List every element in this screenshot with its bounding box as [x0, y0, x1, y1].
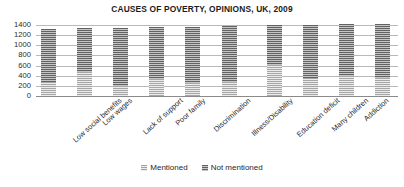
x-axis-label: Discrimination	[212, 96, 253, 134]
y-tick-label-600: 600	[18, 62, 31, 70]
x-axis-category-labels: Low social benefitsLow wagesLack of supp…	[36, 96, 398, 158]
bar-segment-mentioned[interactable]	[149, 79, 164, 96]
y-tick-label-1000: 1000	[14, 41, 31, 49]
legend-swatch-not-mentioned	[202, 165, 208, 171]
bar-column[interactable]	[267, 25, 282, 97]
bar-segment-mentioned[interactable]	[41, 82, 56, 96]
legend-label: Not mentioned	[211, 163, 263, 172]
bar-column[interactable]	[303, 25, 318, 97]
bar-segment-not-mentioned[interactable]	[303, 25, 318, 79]
bar-segment-not-mentioned[interactable]	[375, 24, 390, 78]
y-axis-tick-labels: 0200400600800100012001400	[0, 25, 34, 96]
bar-segment-not-mentioned[interactable]	[185, 27, 200, 83]
legend-item[interactable]: Mentioned	[141, 163, 187, 172]
bar-segment-not-mentioned[interactable]	[41, 29, 56, 82]
chart-page: CAUSES OF POVERTY, OPINIONS, UK, 2009 02…	[0, 0, 404, 187]
y-tick-label-0: 0	[27, 92, 31, 100]
y-tick-label-200: 200	[18, 82, 31, 90]
bar-segment-mentioned[interactable]	[267, 65, 282, 96]
bar-segment-not-mentioned[interactable]	[222, 26, 237, 82]
bar-column[interactable]	[41, 29, 56, 96]
bar-column[interactable]	[113, 28, 128, 96]
bar-column[interactable]	[222, 26, 237, 96]
bar-segment-mentioned[interactable]	[303, 78, 318, 96]
bar-segment-mentioned[interactable]	[77, 72, 92, 96]
bar-column[interactable]	[185, 27, 200, 96]
y-tick-label-1400: 1400	[14, 21, 31, 29]
y-tick-label-800: 800	[18, 52, 31, 60]
legend-swatch-mentioned	[141, 165, 147, 171]
bar-segment-mentioned[interactable]	[222, 82, 237, 96]
legend-item[interactable]: Not mentioned	[202, 163, 263, 172]
bar-column[interactable]	[375, 24, 390, 96]
chart-legend: MentionedNot mentioned	[0, 163, 404, 172]
plot-area	[36, 25, 398, 96]
bar-segment-mentioned[interactable]	[375, 78, 390, 96]
bar-segment-not-mentioned[interactable]	[267, 25, 282, 65]
legend-label: Mentioned	[150, 163, 187, 172]
bar-segment-not-mentioned[interactable]	[77, 28, 92, 72]
bar-segment-not-mentioned[interactable]	[149, 27, 164, 79]
x-axis-label: Low social benefits	[71, 96, 123, 144]
bar-segment-mentioned[interactable]	[185, 83, 200, 96]
bar-column[interactable]	[339, 24, 354, 96]
y-tick-label-1200: 1200	[14, 31, 31, 39]
bar-segment-not-mentioned[interactable]	[113, 28, 128, 86]
bar-column[interactable]	[149, 27, 164, 96]
bar-segment-mentioned[interactable]	[113, 86, 128, 96]
bar-segment-mentioned[interactable]	[339, 76, 354, 96]
x-axis-label: Illness/Disability	[250, 96, 295, 138]
bar-segment-not-mentioned[interactable]	[339, 24, 354, 76]
chart-title: CAUSES OF POVERTY, OPINIONS, UK, 2009	[0, 4, 404, 14]
y-tick-label-400: 400	[18, 72, 31, 80]
bar-column[interactable]	[77, 28, 92, 96]
